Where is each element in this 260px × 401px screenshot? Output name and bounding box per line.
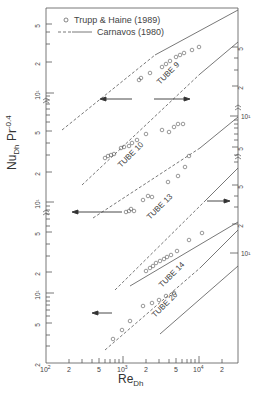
svg-text:10¹: 10¹ — [241, 113, 251, 120]
data-points — [103, 45, 204, 341]
svg-text:10¹: 10¹ — [34, 198, 41, 208]
svg-text:104: 104 — [193, 364, 204, 373]
axis-arrows — [72, 97, 230, 315]
tube-solid-segments — [130, 222, 238, 334]
left-y-axis-labels: 5 2 10¹ 5 2 10¹ 5 2 10¹ 5 2 — [34, 24, 41, 367]
legend-label-trupp: Trupp & Haine (1989) — [74, 15, 160, 25]
svg-text:2: 2 — [237, 86, 244, 90]
svg-text:5: 5 — [237, 47, 244, 51]
tube-10-series — [82, 42, 238, 185]
svg-text:10¹: 10¹ — [34, 289, 41, 299]
y-axis-label: NuDh Pr-0.4 — [4, 115, 21, 170]
axis-break-marks — [43, 98, 241, 215]
svg-text:5: 5 — [34, 24, 41, 28]
svg-text:2: 2 — [34, 272, 41, 276]
legend-label-carnavos: Carnavos (1980) — [97, 27, 164, 37]
svg-text:10¹: 10¹ — [34, 89, 41, 99]
svg-text:2: 2 — [144, 366, 148, 373]
svg-text:2: 2 — [34, 62, 41, 66]
svg-text:102: 102 — [40, 364, 51, 373]
svg-text:5: 5 — [237, 147, 244, 151]
svg-text:5: 5 — [34, 232, 41, 236]
svg-text:2: 2 — [34, 172, 41, 176]
legend-circle-marker — [64, 18, 68, 22]
svg-text:2: 2 — [34, 363, 41, 367]
svg-text:5: 5 — [34, 131, 41, 135]
svg-text:2: 2 — [237, 224, 244, 228]
tube-20-series — [105, 230, 238, 350]
svg-text:5: 5 — [237, 185, 244, 189]
svg-text:2: 2 — [67, 366, 71, 373]
svg-text:5: 5 — [97, 366, 101, 373]
chart: 102 2 5 103 2 5 104 2 5 2 10¹ 5 2 10¹ 5 … — [0, 0, 260, 401]
label-tube-9: TUBE 9 — [155, 60, 182, 87]
svg-text:2: 2 — [220, 366, 224, 373]
legend: Trupp & Haine (1989) Carnavos (1980) — [58, 15, 164, 37]
label-tube-20: TUBE 20 — [150, 290, 180, 320]
x-axis-label: ReDh — [118, 372, 144, 388]
right-y-axis-labels: 5 2 10¹ 5 5 2 10¹ — [237, 47, 251, 257]
x-axis-ticks — [69, 356, 222, 363]
svg-text:5: 5 — [174, 366, 178, 373]
left-y-axis — [46, 24, 54, 346]
svg-text:10¹: 10¹ — [241, 250, 251, 257]
label-tube-14: TUBE 14 — [157, 260, 187, 290]
plot-frame — [46, 8, 238, 363]
svg-text:5: 5 — [34, 323, 41, 327]
